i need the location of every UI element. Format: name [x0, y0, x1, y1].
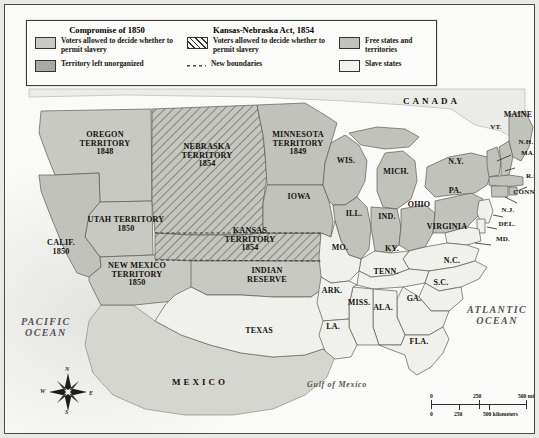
indiana-area [371, 207, 401, 253]
legend-label-popsov1854: Voters allowed to decide whether to perm… [213, 36, 339, 54]
scale-miles-end: 500 miles [518, 393, 535, 399]
map-frame: CANADA MEXICO PACIFIC OCEAN ATLANTIC OCE… [4, 4, 535, 434]
legend-swatch-free [339, 37, 360, 49]
scale-tick-mid-km [459, 404, 460, 410]
scale-tick-end-km [489, 404, 490, 410]
map-legend: Compromise of 1850 Kansas-Nebraska Act, … [26, 20, 437, 86]
legend-item-slave: Slave states [339, 59, 428, 72]
legend-swatch-popsov1854 [187, 37, 208, 49]
legend-swatch-popsov1850 [35, 37, 56, 49]
legend-label-slave: Slave states [365, 59, 401, 68]
compass-star [49, 373, 87, 411]
legend-item-popsov1854: Voters allowed to decide whether to perm… [187, 36, 339, 54]
legend-swatch-newboundaries [187, 60, 206, 70]
new-york-area [425, 153, 493, 197]
pennsylvania-area [433, 193, 483, 233]
compass-label-south: S [65, 409, 68, 415]
legend-label-popsov1850: Voters allowed to decide whether to perm… [61, 36, 187, 54]
compass-label-east: E [89, 390, 93, 396]
legend-item-newboundaries: New boundaries [187, 59, 339, 70]
scale-km-end: 500 kilometers [483, 411, 518, 417]
compass-label-west: W [40, 388, 45, 394]
legend-title-kansas-nebraska: Kansas-Nebraska Act, 1854 [187, 25, 436, 35]
legend-label-free: Free states and territories [365, 36, 428, 54]
legend-swatch-slave [339, 60, 360, 72]
compass-rose: N S E W [33, 360, 103, 422]
scale-bar: 0 250 500 miles 0 250 500 kilometers [429, 393, 533, 423]
maine-area [509, 111, 533, 161]
utah-territory-area [85, 201, 153, 257]
nebraska-territory-area [152, 105, 267, 235]
scale-miles-mid: 250 [473, 393, 481, 399]
scale-tick-end-miles [526, 400, 527, 409]
scale-miles-zero: 0 [430, 393, 433, 399]
iowa-area [263, 185, 333, 237]
massachusetts-area [489, 175, 523, 187]
legend-label-newboundaries: New boundaries [211, 59, 262, 68]
legend-item-unorganized: Territory left unorganized [35, 59, 187, 72]
ohio-area [399, 205, 435, 251]
legend-item-free: Free states and territories [339, 36, 428, 54]
vermont-area [487, 147, 501, 177]
compass-label-north: N [65, 366, 69, 372]
scale-km-mid: 250 [454, 411, 462, 417]
kansas-territory-area [155, 233, 321, 261]
scale-km-zero: 0 [430, 411, 433, 417]
scale-tick-mid-miles [479, 400, 480, 409]
connecticut-area [491, 186, 508, 197]
legend-item-popsov1850: Voters allowed to decide whether to perm… [35, 36, 187, 54]
legend-label-unorganized: Territory left unorganized [61, 59, 144, 68]
rhode-island-area [509, 187, 517, 195]
scale-tick-0 [431, 400, 432, 409]
legend-swatch-unorganized [35, 60, 56, 72]
legend-title-compromise: Compromise of 1850 [27, 25, 187, 35]
michigan-area [377, 151, 417, 209]
indian-reserve-area [191, 261, 325, 297]
